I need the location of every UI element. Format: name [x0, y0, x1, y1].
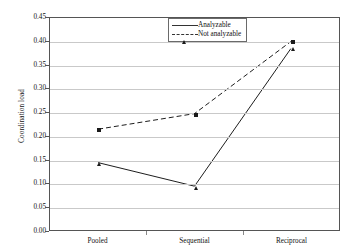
legend-key-analyzable	[172, 21, 198, 30]
y-axis-tick-mark	[45, 17, 49, 18]
series-lines	[50, 18, 339, 230]
data-point-square-marker-icon	[194, 113, 198, 117]
data-point-square-marker-icon	[97, 128, 101, 132]
y-axis-tick-label: 0.20	[20, 132, 46, 140]
gridline	[50, 66, 339, 67]
data-point-triangle-marker-icon	[194, 186, 198, 190]
data-point-triangle-marker-icon	[291, 47, 295, 51]
y-axis-tick-mark	[45, 88, 49, 89]
y-axis-tick-mark	[45, 207, 49, 208]
x-axis-tick-mark	[146, 231, 147, 235]
y-axis-tick-mark	[45, 136, 49, 137]
legend-label-analyzable: Analyzable	[198, 21, 231, 30]
gridline	[50, 89, 339, 90]
y-axis-tick-mark	[45, 65, 49, 66]
y-axis-tick-mark	[45, 112, 49, 113]
series-line-analyzable	[98, 49, 291, 187]
line-chart: Coordination load 0.450.400.350.300.250.…	[0, 0, 362, 252]
y-axis-tick-label: 0.30	[20, 84, 46, 92]
x-axis-tick-mark	[243, 231, 244, 235]
y-axis-tick-label: 0.15	[20, 156, 46, 164]
data-point-square-marker-icon	[291, 40, 295, 44]
gridline	[50, 208, 339, 209]
y-axis-tick-mark	[45, 160, 49, 161]
legend-label-not-analyzable: Not analyzable	[198, 30, 241, 39]
y-axis-tick-label: 0.05	[20, 203, 46, 211]
gridline	[50, 161, 339, 162]
x-axis-tick-label: Pooled	[53, 237, 143, 245]
y-axis-tick-mark	[45, 41, 49, 42]
y-axis-tick-labels: 0.450.400.350.300.250.200.150.100.050.00	[20, 13, 46, 235]
y-axis-tick-label: 0.40	[20, 37, 46, 45]
legend-key-not-analyzable	[172, 30, 198, 39]
gridline	[50, 137, 339, 138]
y-axis-tick-mark	[45, 183, 49, 184]
y-axis-tick-label: 0.45	[20, 13, 46, 21]
x-axis-tick-label: Reciprocal	[247, 237, 337, 245]
legend-item-analyzable: Analyzable	[172, 21, 241, 30]
y-axis-tick-label: 0.25	[20, 108, 46, 116]
y-axis-tick-label: 0.35	[20, 61, 46, 69]
y-axis-tick-label: 0.00	[20, 227, 46, 235]
y-axis-tick-mark	[45, 231, 49, 232]
plot-area	[49, 17, 340, 231]
chart-legend: Analyzable Not analyzable	[168, 18, 247, 42]
x-axis-tick-label: Sequential	[150, 237, 240, 245]
y-axis-tick-label: 0.10	[20, 179, 46, 187]
data-point-triangle-marker-icon	[97, 162, 101, 166]
legend-item-not-analyzable: Not analyzable	[172, 30, 241, 39]
